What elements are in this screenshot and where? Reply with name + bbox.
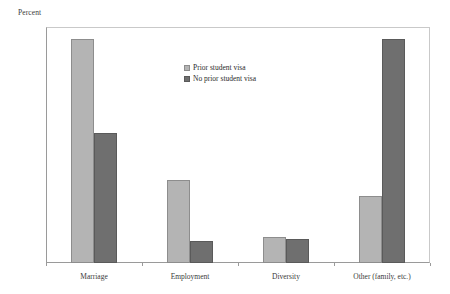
legend-item-noprior: No prior student visa: [184, 74, 256, 84]
x-tick-mark: [46, 263, 47, 266]
legend-swatch-prior-icon: [184, 65, 190, 71]
bar: [286, 239, 309, 263]
y-axis-title: Percent: [18, 8, 41, 17]
x-tick-mark: [238, 263, 239, 266]
legend-label-noprior: No prior student visa: [193, 75, 256, 83]
x-tick-mark: [430, 263, 431, 266]
bar: [359, 196, 382, 263]
bar: [382, 39, 405, 263]
x-tick-mark: [334, 263, 335, 266]
bar: [263, 237, 286, 263]
x-tick-mark: [142, 263, 143, 266]
x-tick-label: Marriage: [80, 272, 107, 281]
x-tick-label: Diversity: [272, 272, 300, 281]
bar: [190, 241, 213, 263]
bar: [94, 133, 117, 263]
legend: Prior student visa No prior student visa: [184, 63, 256, 85]
bar-chart: Percent 0102030405060 MarriageEmployment…: [0, 0, 450, 294]
bar: [71, 39, 94, 263]
legend-label-prior: Prior student visa: [193, 64, 246, 72]
bar: [167, 180, 190, 263]
x-tick-label: Other (family, etc.): [353, 272, 410, 281]
legend-swatch-noprior-icon: [184, 76, 190, 82]
legend-item-prior: Prior student visa: [184, 63, 256, 73]
x-tick-label: Employment: [171, 272, 210, 281]
